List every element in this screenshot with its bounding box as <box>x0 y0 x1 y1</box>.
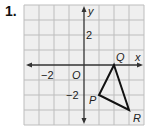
coordinate-plane: y x 2 −2 O −2 Q P R <box>0 0 151 132</box>
vertex-R-label: R <box>133 112 141 124</box>
vertex-Q-label: Q <box>116 51 125 63</box>
y-tick-neg2: −2 <box>66 89 79 101</box>
vertex-P-label: P <box>89 94 97 106</box>
origin-label: O <box>72 69 81 81</box>
x-axis-label: x <box>134 51 141 63</box>
x-tick-neg2: −2 <box>41 69 54 81</box>
y-tick-2: 2 <box>86 29 92 41</box>
